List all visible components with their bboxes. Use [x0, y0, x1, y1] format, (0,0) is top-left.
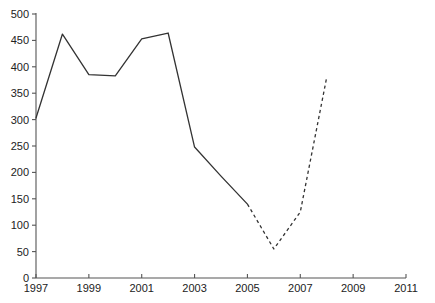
y-tick-label: 50 — [17, 246, 29, 258]
data-series-group — [36, 33, 327, 249]
y-tick-label: 350 — [11, 87, 29, 99]
y-tick-label: 100 — [11, 219, 29, 231]
line-chart: 050100150200250300350400450500 199719992… — [0, 0, 435, 303]
y-tick-label: 300 — [11, 114, 29, 126]
x-tick-label: 2001 — [129, 282, 153, 294]
x-tick-label: 1997 — [24, 282, 48, 294]
x-tick-label: 1999 — [77, 282, 101, 294]
series-line-actual — [36, 33, 247, 204]
y-tick-label: 500 — [11, 8, 29, 20]
x-tick-label: 2003 — [182, 282, 206, 294]
x-tick-label: 2009 — [341, 282, 365, 294]
x-tick-label: 2011 — [394, 282, 418, 294]
y-tick-label: 450 — [11, 34, 29, 46]
chart-canvas: 050100150200250300350400450500 199719992… — [0, 0, 435, 303]
series-line-projected — [247, 77, 326, 249]
x-axis: 19971999200120032005200720092011 — [24, 274, 418, 294]
y-tick-label: 400 — [11, 61, 29, 73]
y-tick-label: 150 — [11, 193, 29, 205]
y-tick-label: 200 — [11, 166, 29, 178]
x-tick-label: 2007 — [288, 282, 312, 294]
y-axis: 050100150200250300350400450500 — [11, 8, 36, 284]
x-tick-label: 2005 — [235, 282, 259, 294]
y-tick-label: 250 — [11, 140, 29, 152]
